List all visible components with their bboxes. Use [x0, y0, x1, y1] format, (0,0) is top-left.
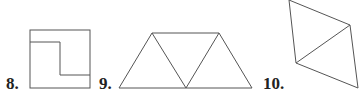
figure-9-trapezoid [119, 33, 252, 88]
figure-8-square [30, 30, 90, 88]
figure-10-rhombus [289, 0, 358, 88]
figures-canvas [0, 0, 364, 96]
